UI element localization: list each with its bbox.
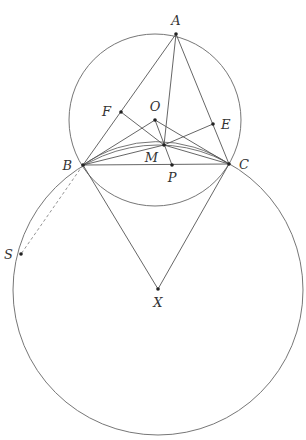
segment-BX bbox=[83, 165, 158, 289]
label-O: O bbox=[150, 99, 161, 114]
point-P bbox=[170, 163, 174, 167]
point-M bbox=[162, 143, 166, 147]
dashed-segments-layer bbox=[21, 165, 83, 254]
geometry-diagram: ABCFOEMPSX bbox=[0, 0, 306, 440]
point-S bbox=[19, 252, 23, 256]
label-F: F bbox=[101, 104, 112, 119]
point-O bbox=[153, 118, 157, 122]
label-B: B bbox=[61, 158, 72, 173]
label-P: P bbox=[167, 170, 177, 185]
segment-FM bbox=[121, 112, 164, 145]
label-X: X bbox=[152, 295, 163, 310]
label-S: S bbox=[4, 247, 13, 262]
circles-layer bbox=[13, 34, 303, 435]
label-M: M bbox=[144, 150, 159, 165]
point-B bbox=[81, 163, 85, 167]
segment-AM bbox=[164, 34, 176, 145]
point-X bbox=[156, 287, 160, 291]
point-A bbox=[174, 32, 178, 36]
point-E bbox=[211, 122, 215, 126]
points-layer bbox=[19, 32, 231, 291]
diagram-svg: ABCFOEMPSX bbox=[0, 0, 306, 440]
label-A: A bbox=[170, 13, 180, 28]
point-F bbox=[119, 110, 123, 114]
point-C bbox=[227, 162, 231, 166]
dashed-segment-BS bbox=[21, 165, 83, 254]
labels-layer: ABCFOEMPSX bbox=[4, 13, 249, 310]
label-C: C bbox=[239, 157, 249, 172]
segment-ME bbox=[164, 124, 213, 145]
label-E: E bbox=[220, 117, 231, 132]
